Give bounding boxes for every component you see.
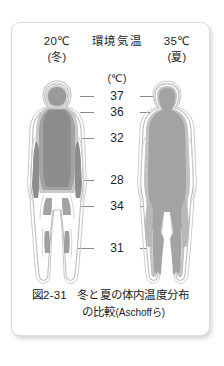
header-summer-condition: 35℃ (夏) <box>146 35 208 64</box>
caption-line-1: 図2-31 冬と夏の体内温度分布 <box>12 287 209 304</box>
header-winter-season: (冬) <box>26 51 88 65</box>
figure-caption: 図2-31 冬と夏の体内温度分布 の比較(Aschoffら) <box>12 287 209 321</box>
caption-line-2: の比較(Aschoffら) <box>12 304 209 321</box>
caption-figure-number: 図2-31 <box>32 289 67 301</box>
header-winter-condition: 20℃ (冬) <box>26 35 88 64</box>
summer-body-diagram <box>128 79 206 287</box>
header-winter-temp: 20℃ <box>44 35 70 47</box>
caption-title-cont: の比較 <box>82 306 116 318</box>
figure-card: 20℃ (冬) 環境気温 35℃ (夏) (℃) 37 36 32 28 <box>11 22 210 336</box>
caption-source: (Aschoffら) <box>115 307 165 318</box>
caption-title: 冬と夏の体内温度分布 <box>77 289 189 301</box>
winter-body-diagram <box>18 79 96 287</box>
header-summer-season: (夏) <box>146 51 208 65</box>
header-row: 20℃ (冬) 環境気温 35℃ (夏) <box>12 35 209 69</box>
header-environment-title: 環境気温 <box>86 35 148 49</box>
header-summer-temp: 35℃ <box>164 35 190 47</box>
